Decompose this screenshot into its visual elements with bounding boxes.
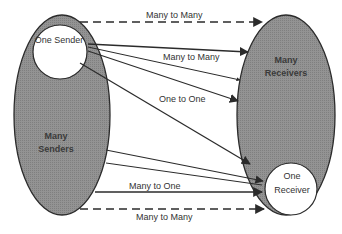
label-one-sender-many-to-many: Many to Many	[163, 53, 220, 62]
label-many-to-one: Many to One	[129, 182, 181, 191]
one-sender-label: One Sender	[35, 36, 84, 45]
edge-senders-to-one-receiver-1	[106, 150, 263, 181]
label-one-to-one: One to One	[159, 95, 206, 104]
one-receiver-label-line1: One	[283, 172, 300, 181]
edge-one-sender-to-receivers-1	[88, 44, 248, 52]
label-top-many-to-many: Many to Many	[146, 11, 203, 20]
one-sender-circle	[33, 25, 87, 79]
many-senders-label-line2: Senders	[38, 145, 74, 154]
many-receivers-label-line1: Many	[274, 56, 297, 65]
many-senders-label-line1: Many	[44, 132, 67, 141]
one-receiver-label-line2: Receiver	[274, 186, 310, 195]
label-bottom-many-to-many: Many to Many	[136, 213, 193, 222]
many-receivers-label-line2: Receivers	[265, 69, 308, 78]
